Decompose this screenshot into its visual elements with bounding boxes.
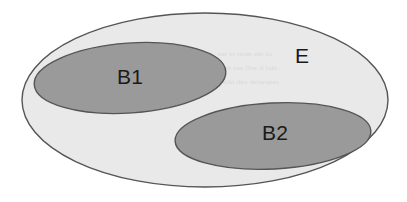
bleed-through-line: sut ot tsom eht fo — [218, 50, 272, 58]
set-label-b1: B1 — [117, 65, 143, 88]
set-label-universe: E — [295, 44, 309, 67]
bleed-through-line: si siht dna detarapes — [216, 78, 279, 86]
venn-diagram-canvas: sut ot tsom eht fo eb ton lliw ti taht s… — [0, 0, 407, 202]
bleed-through-line: eb ton lliw ti taht — [224, 64, 278, 72]
set-label-b2: B2 — [262, 121, 288, 144]
venn-diagram-figure: sut ot tsom eht fo eb ton lliw ti taht s… — [0, 0, 407, 202]
